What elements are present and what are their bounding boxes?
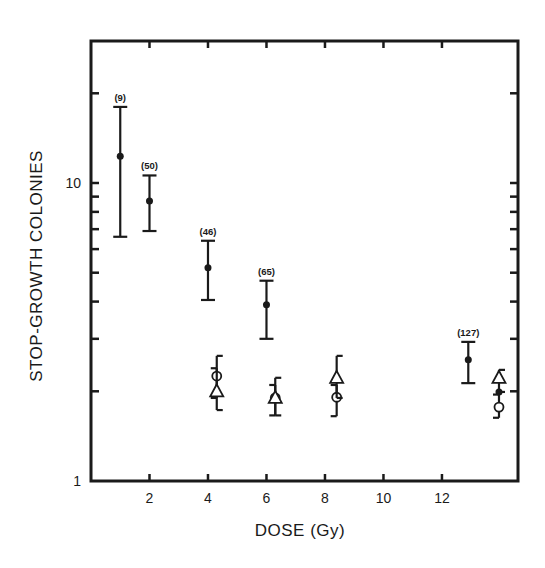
filled-circle-marker: [117, 153, 124, 160]
series-open-triangles: [210, 356, 505, 416]
open-circle-marker: [494, 403, 503, 412]
tick-labels: 24681012110: [65, 175, 450, 506]
series-filled-circles: (9)(50)(46)(65)(127): [113, 92, 502, 396]
sample-size-annotation: (50): [141, 160, 158, 171]
x-tick-label: 8: [321, 490, 329, 506]
open-triangle-marker: [492, 371, 505, 383]
x-tick-label: 6: [263, 490, 271, 506]
filled-circle-marker: [263, 301, 270, 308]
x-tick-label: 4: [204, 490, 212, 506]
plot-frame: [91, 41, 518, 481]
x-tick-label: 2: [146, 490, 154, 506]
filled-circle-marker: [465, 356, 472, 363]
filled-circle-marker: [204, 264, 211, 271]
y-tick-label: 10: [65, 175, 81, 191]
open-triangle-marker: [330, 371, 343, 383]
chart-canvas: 24681012110 (9)(50)(46)(65)(127): [0, 0, 545, 568]
data-points: (9)(50)(46)(65)(127): [113, 92, 505, 418]
sample-size-annotation: (127): [457, 327, 479, 338]
series-open-circles: [211, 368, 504, 418]
x-tick-label: 12: [434, 490, 450, 506]
axis-ticks: [91, 41, 518, 481]
y-tick-label: 1: [73, 473, 81, 489]
y-axis-label: STOP-GROWTH COLONIES: [27, 150, 47, 382]
sample-size-annotation: (65): [258, 266, 275, 277]
filled-circle-marker: [146, 198, 153, 205]
plot-border: [91, 41, 518, 481]
x-tick-label: 10: [376, 490, 392, 506]
sample-size-annotation: (46): [200, 226, 217, 237]
open-triangle-marker: [210, 384, 223, 396]
x-axis-label: DOSE (Gy): [255, 521, 345, 541]
sample-size-annotation: (9): [114, 92, 126, 103]
